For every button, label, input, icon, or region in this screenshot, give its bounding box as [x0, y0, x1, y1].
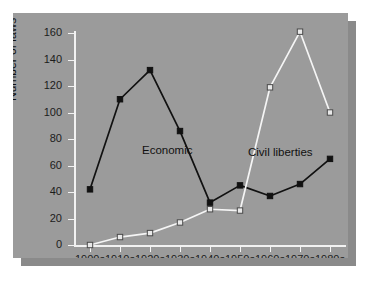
data-point — [297, 29, 302, 34]
data-point — [87, 187, 92, 192]
data-point — [207, 207, 212, 212]
data-point — [327, 110, 332, 115]
data-point — [177, 220, 182, 225]
data-point — [177, 128, 182, 133]
series-plot — [13, 13, 348, 258]
data-point — [207, 200, 212, 205]
chart-panel: Number of laws 020406080100120140160 190… — [13, 13, 348, 258]
data-point — [237, 208, 242, 213]
data-point — [267, 85, 272, 90]
chart-figure: Number of laws 020406080100120140160 190… — [0, 0, 367, 290]
series-annotation-economic: Economic — [142, 144, 193, 156]
data-point — [267, 193, 272, 198]
data-point — [297, 181, 302, 186]
series-line — [90, 70, 330, 203]
series-line — [90, 32, 330, 245]
data-point — [147, 67, 152, 72]
series-civil-liberties — [87, 29, 332, 248]
data-point — [237, 183, 242, 188]
data-point — [147, 230, 152, 235]
data-point — [117, 97, 122, 102]
data-point — [327, 156, 332, 161]
series-annotation-civil-liberties: Civil liberties — [248, 146, 313, 158]
series-economic — [87, 67, 332, 205]
data-point — [117, 234, 122, 239]
data-point — [87, 242, 92, 247]
